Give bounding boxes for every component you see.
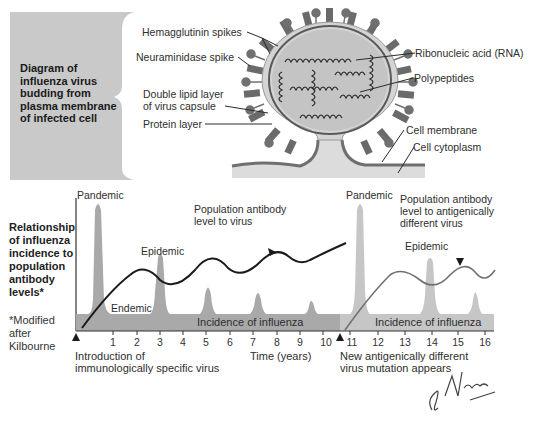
diagram-title-line: plasma membrane — [20, 100, 117, 113]
tick-label: 2 — [134, 336, 140, 348]
label-double-lipid-layer-line1: Double lipid layer — [143, 88, 224, 100]
diagram-title: Diagram of influenza virus budding from … — [20, 62, 117, 125]
chart-title-line: of influenza — [9, 234, 75, 247]
tick-label: 5 — [203, 336, 209, 348]
label-incidence-1: Incidence of influenza — [197, 316, 303, 328]
label-endemic: Endemic — [111, 302, 152, 314]
tick-label: 11 — [347, 336, 358, 348]
label-antibody-1-line1: Population antibody — [194, 203, 286, 215]
label-mutation-line2: virus mutation appears — [340, 362, 451, 374]
label-epidemic-2: Epidemic — [405, 240, 448, 252]
label-epidemic-1: Epidemic — [141, 245, 184, 257]
footnote-line: *Modified — [9, 314, 55, 327]
label-pandemic-1: Pandemic — [77, 189, 124, 201]
label-cell-membrane: Cell membrane — [406, 124, 477, 136]
x-axis-label: Time (years) — [250, 350, 311, 362]
tick-label: 4 — [180, 336, 186, 348]
chart-title-line: antibody — [9, 273, 75, 286]
tick-label: 3 — [157, 336, 163, 348]
label-double-lipid-layer-line2: of virus capsule — [143, 100, 216, 112]
label-incidence-2: Incidence of influenza — [375, 316, 481, 328]
label-rna: Ribonucleic acid (RNA) — [415, 47, 524, 59]
chart-title-line: incidence to — [9, 247, 75, 260]
chart-title-line: Relationship — [9, 221, 75, 234]
label-antibody-2-line1: Population antibody — [400, 193, 492, 205]
diagram-title-line: influenza virus — [20, 75, 117, 88]
footnote-line: after — [9, 327, 55, 340]
tick-label: 15 — [452, 336, 464, 348]
tick-label: 1 — [110, 336, 116, 348]
tick-label: 10 — [320, 336, 332, 348]
mutation-marker-triangle — [336, 333, 344, 341]
label-intro-line1: Introduction of — [75, 350, 145, 362]
tick-label: 14 — [426, 336, 438, 348]
tick-label: 12 — [372, 336, 384, 348]
label-intro-line2: immunologically specific virus — [75, 362, 219, 374]
footnote-line: Kilbourne — [9, 340, 55, 353]
label-mutation-line1: New antigenically different — [340, 350, 468, 362]
label-protein-layer: Protein layer — [143, 118, 202, 130]
curve-marker-arrow-2 — [456, 258, 464, 266]
signature — [430, 372, 495, 410]
label-antibody-2-line3: different virus — [400, 217, 463, 229]
intro-marker-triangle — [72, 333, 80, 341]
diagram-title-line: of infected cell — [20, 112, 117, 125]
label-pandemic-2: Pandemic — [346, 189, 393, 201]
label-neuraminidase-spike: Neuraminidase spike — [136, 51, 234, 63]
label-hemagglutinin-spikes: Hemagglutinin spikes — [142, 26, 242, 38]
tick-label: 16 — [479, 336, 491, 348]
chart-title: Relationship of influenza incidence to p… — [9, 221, 75, 299]
tick-label: 8 — [274, 336, 280, 348]
diagram-title-line: Diagram of — [20, 62, 117, 75]
footnote: *Modified after Kilbourne — [9, 314, 55, 353]
chart-title-line: levels* — [9, 286, 75, 299]
tick-label: 6 — [227, 336, 233, 348]
label-antibody-2-line2: level to antigenically — [400, 205, 494, 217]
diagram-title-line: budding from — [20, 87, 117, 100]
chart-title-line: population — [9, 260, 75, 273]
tick-label: 7 — [250, 336, 256, 348]
tick-label: 13 — [399, 336, 411, 348]
label-polypeptides: Polypeptides — [414, 72, 474, 84]
label-cell-cytoplasm: Cell cytoplasm — [413, 141, 481, 153]
tick-label: 9 — [297, 336, 303, 348]
label-antibody-1-line2: level to virus — [194, 215, 252, 227]
